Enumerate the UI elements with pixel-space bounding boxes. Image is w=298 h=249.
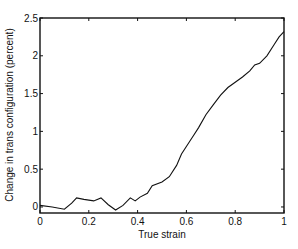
x-tick-label: 1 bbox=[281, 216, 287, 227]
x-tick-label: 0.6 bbox=[179, 216, 193, 227]
y-tick-label: 1.5 bbox=[24, 88, 38, 99]
y-tick-label: 0.5 bbox=[24, 164, 38, 175]
y-tick-label: 0 bbox=[32, 201, 38, 212]
y-tick-label: 1 bbox=[32, 126, 38, 137]
y-tick-label: 2 bbox=[32, 50, 38, 61]
plot-frame bbox=[40, 18, 284, 213]
axis-ticks bbox=[40, 18, 284, 213]
x-tick-label: 0 bbox=[37, 216, 43, 227]
tick-labels: 00.20.40.60.8100.511.522.5 bbox=[24, 13, 287, 228]
y-tick-label: 2.5 bbox=[24, 13, 38, 24]
line-chart: 00.20.40.60.8100.511.522.5 True strain C… bbox=[0, 0, 298, 249]
y-axis-label: Change in trans configuration (percent) bbox=[4, 28, 15, 201]
x-tick-label: 0.2 bbox=[82, 216, 96, 227]
x-tick-label: 0.8 bbox=[228, 216, 242, 227]
x-axis-label: True strain bbox=[138, 229, 185, 240]
data-line bbox=[40, 32, 284, 210]
x-tick-label: 0.4 bbox=[131, 216, 145, 227]
